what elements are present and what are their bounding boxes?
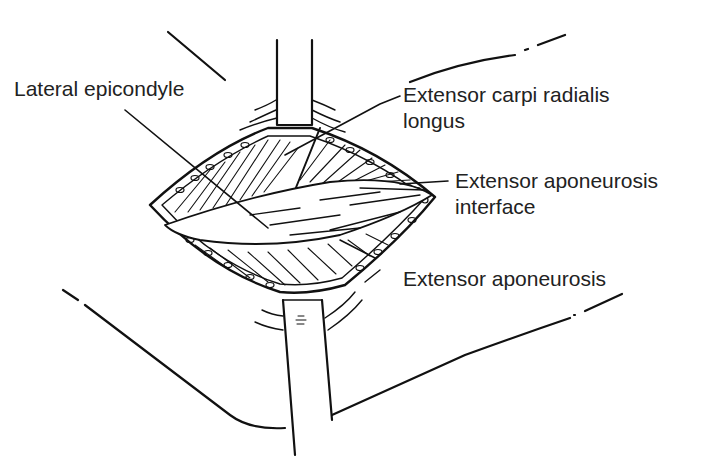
- label-line: longus: [403, 108, 610, 134]
- label-line: interface: [455, 194, 658, 220]
- arm-outline-lower-left: [63, 290, 285, 428]
- arm-outline-upper-right: [410, 35, 565, 82]
- surgical-exposure-illustration: [0, 0, 703, 459]
- label-line: Lateral epicondyle: [14, 76, 184, 102]
- arm-outline-lower-right: [332, 294, 622, 415]
- label-line: Extensor carpi radialis: [403, 82, 610, 108]
- label-extensor-aponeurosis: Extensor aponeurosis: [403, 266, 606, 292]
- label-line: Extensor aponeurosis: [403, 266, 606, 292]
- label-extensor-aponeurosis-interface: Extensor aponeurosis interface: [455, 168, 658, 220]
- label-line: Extensor aponeurosis: [455, 168, 658, 194]
- arm-outline-upper-left: [168, 32, 225, 80]
- label-lateral-epicondyle: Lateral epicondyle: [14, 76, 184, 102]
- lower-retractor: [283, 300, 332, 455]
- label-extensor-carpi-radialis-longus: Extensor carpi radialis longus: [403, 82, 610, 134]
- upper-retractor: [277, 40, 312, 125]
